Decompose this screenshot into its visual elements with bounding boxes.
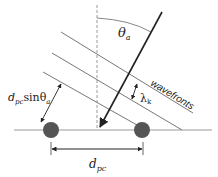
wavefront-lines xyxy=(43,32,193,130)
incident-arrow xyxy=(100,12,162,127)
element-right xyxy=(134,122,150,138)
diagram: θa wavefronts λk dpcsinθa dpc xyxy=(0,0,218,177)
wavelength-label: λk xyxy=(140,92,152,106)
wavefronts-label: wavefronts xyxy=(149,77,196,111)
element-left xyxy=(43,122,59,138)
path-difference-label: dpcsinθa xyxy=(8,91,51,106)
spacing-label: dpc xyxy=(89,157,107,173)
angle-label: θa xyxy=(118,25,131,42)
wavelength-arrow xyxy=(132,84,137,99)
